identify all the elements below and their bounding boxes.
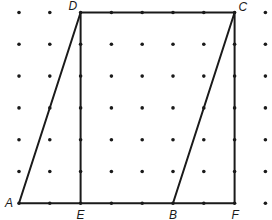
grid-dot [48,170,52,174]
grid-dot [17,43,21,47]
grid-dot [110,106,114,110]
dot-grid [17,11,267,205]
point-label-a: A [4,196,13,210]
grid-dot [140,43,144,47]
grid-dot [110,170,114,174]
grid-dot [264,74,268,78]
grid-dot [202,43,206,47]
grid-dot [264,11,268,15]
point-labels: AEBFDC [4,0,248,220]
grid-dot [171,74,175,78]
grid-dot [140,170,144,174]
geometry-figure: AEBFDC [0,0,272,220]
grid-dot [17,74,21,78]
grid-dot [110,74,114,78]
grid-dot [171,170,175,174]
grid-dot [264,170,268,174]
point-label-b: B [169,208,177,220]
segment-cb [173,13,235,204]
grid-dot [171,138,175,142]
grid-dot [140,138,144,142]
grid-dot [110,43,114,47]
grid-dot [264,202,268,206]
grid-dot [264,43,268,47]
grid-dot [17,11,21,15]
grid-dot [17,138,21,142]
grid-dot [48,43,52,47]
grid-dot [264,138,268,142]
grid-dot [140,106,144,110]
grid-dot [17,106,21,110]
grid-dot [48,74,52,78]
grid-dot [202,170,206,174]
grid-dot [171,106,175,110]
point-label-f: F [232,208,240,220]
grid-dot [202,74,206,78]
grid-dot [48,11,52,15]
grid-dot [264,106,268,110]
diagram-canvas: AEBFDC [0,0,272,220]
point-label-e: E [77,208,86,220]
point-label-c: C [239,0,248,14]
grid-dot [17,170,21,174]
grid-dot [110,138,114,142]
grid-dot [140,74,144,78]
point-label-d: D [69,0,78,13]
segment-ad [19,13,81,204]
grid-dot [202,138,206,142]
grid-dot [171,43,175,47]
grid-dot [48,138,52,142]
